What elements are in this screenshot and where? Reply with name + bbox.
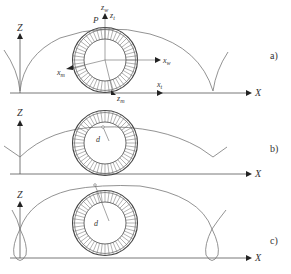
x-t-label: xt [156,80,163,90]
z-axis-arrow-c [17,201,23,207]
curtate-curve-b [4,127,227,157]
tread-segment [120,158,128,166]
x-m-label: xm [56,68,66,78]
z-t-label: zt [109,11,115,21]
x-t-arrow [157,90,163,96]
tread-segment [82,120,90,128]
panel-label-a: a) [270,50,278,62]
tread-segment [120,75,128,83]
loop-right-c [206,229,219,261]
z-w-arrow [102,13,108,19]
x-m-arrow [66,65,73,70]
z-m-label: zm [116,94,125,104]
x-axis-label-c: X [254,252,262,263]
tread-segment [120,200,128,208]
point-p-label: P [92,15,99,25]
tread-segment [82,238,90,246]
tread-segment [120,238,128,246]
tread-segment [120,37,128,45]
panel-label-b: b) [270,143,278,155]
tread-segment [82,158,90,166]
wheel-c [73,184,138,256]
x-axis-arrow-b [246,171,252,177]
z-w-label: zw [100,3,108,13]
tread-segment [82,37,90,45]
z-axis-arrow-a [17,33,23,39]
z-axis-label-a: Z [17,22,23,33]
x-w-arrow [155,57,161,63]
tread-segment [82,75,90,83]
wheel-b [73,111,138,176]
panel-a: X Z zw zt P xw xm zm xt a) [4,3,278,104]
z-axis-arrow-b [17,120,23,126]
wheel-a [72,14,155,93]
x-axis-arrow-a [246,90,252,96]
wheel-tread-c [73,191,138,256]
x-axis-label-a: X [254,87,262,98]
rolling-wheel-diagram: X Z zw zt P xw xm zm xt a) X [0,0,291,274]
x-axis-arrow-c [246,255,252,261]
panel-b: X Z d b) [4,107,278,179]
d-label-c: d [94,219,99,228]
x-w-label: xw [162,56,171,66]
tread-segment [82,200,90,208]
d-label-b: d [96,135,101,144]
panel-c: X Z d c) [10,184,278,263]
z-axis-label-b: Z [17,107,23,118]
x-axis-label-b: X [254,168,262,179]
panel-label-c: c) [270,235,278,247]
z-axis-label-c: Z [17,189,23,200]
wheel-tread-b [73,111,138,176]
